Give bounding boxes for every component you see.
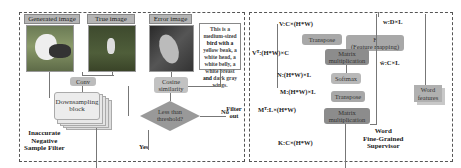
vt-label: Vᵀ:(H*W)×C	[252, 49, 289, 56]
error-image-label: Error image	[149, 14, 192, 24]
matrix-multiplication-box-1: Matrix multiplication	[325, 49, 369, 65]
decision-label: Less than threshold?	[153, 108, 187, 122]
w-label: w:D×L	[383, 18, 403, 25]
yes-label: Yes	[139, 143, 148, 150]
transpose-box-1: Transpose	[302, 34, 342, 45]
downsampling-block: Downsampling block	[54, 92, 100, 120]
left-panel-title: Inaccurate Negative Sample Filter	[24, 130, 65, 153]
word-features-box: Word features	[414, 85, 442, 102]
mt-label: Mᵀ:L×(H*W)	[258, 106, 296, 113]
generated-image-label: Generated image	[24, 14, 80, 24]
cosine-similarity-box: Cosine similarity	[154, 77, 188, 93]
text-description: This is a medium-sized bird with a yello…	[199, 23, 241, 70]
error-image	[149, 25, 194, 72]
matrix-multiplication-box-2: Matrix multiplication	[324, 108, 370, 124]
softmax-box: Softmax	[331, 73, 361, 84]
m-label: M:(H*W)×L	[280, 88, 315, 95]
conv-box: Conv	[70, 77, 96, 86]
v-label: V:C×(H*W)	[279, 20, 313, 27]
true-image-label: True image	[87, 14, 135, 24]
transpose-box-2: Transpose	[331, 91, 365, 102]
right-panel-title: Word Fine-Grained Supervisor	[363, 128, 403, 151]
filter-out-label: Filter out	[226, 105, 242, 119]
generated-image	[26, 25, 74, 72]
k-label: K:C×(H*W)	[278, 139, 313, 146]
n-label: N:(H*W)×L	[277, 71, 311, 78]
w-hat-label: ŵ:C×L	[380, 59, 400, 66]
true-image	[88, 25, 136, 72]
